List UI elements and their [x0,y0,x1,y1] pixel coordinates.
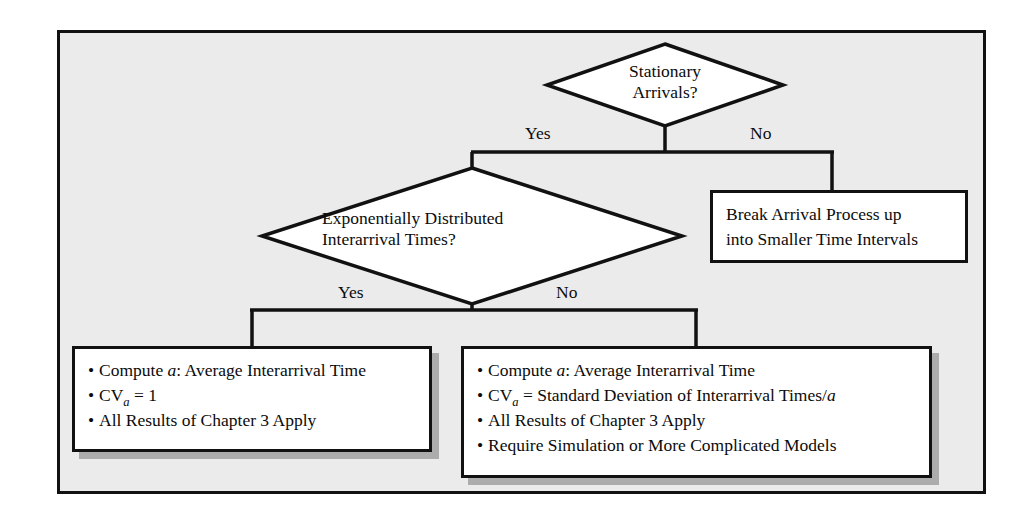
flowchart-canvas: Stationary Arrivals? Yes No Exponentiall… [0,0,1036,517]
process-box-break-arrival-process: Break Arrival Process up into Smaller Ti… [710,190,968,263]
decision-line-1: Exponentially Distributed [322,208,622,229]
bullet-text-pre: All Results of Chapter 3 Apply [99,410,316,430]
bullet-text-pre: Compute [488,360,557,380]
bullet-text-post: = Standard Deviation of Interarrival Tim… [519,385,827,405]
bullet-text-tail-italic: a [827,385,836,405]
decision-line-2: Arrivals? [565,82,765,103]
bullet-text-post: : Average Interarrival Time [176,360,366,380]
bullet-text-post: = 1 [130,385,157,405]
edge-label-exponential-no: No [556,282,577,303]
list-item: •All Results of Chapter 3 Apply [477,408,916,433]
bullet-glyph: • [477,383,488,408]
result-box-exponential-results: •Compute a: Average Interarrival Time •C… [72,346,432,452]
decision-label-stationary-arrivals: Stationary Arrivals? [565,61,765,102]
list-item: •Require Simulation or More Complicated … [477,433,916,458]
list-item: •All Results of Chapter 3 Apply [88,408,416,433]
bullet-glyph: • [88,408,99,433]
edge-label-stationary-yes: Yes [525,123,550,144]
process-line-1: Break Arrival Process up [726,202,952,227]
bullet-text-pre: CV [99,385,123,405]
bullet-glyph: • [477,433,488,458]
bullet-text-post: : Average Interarrival Time [565,360,755,380]
result-box-general-results: •Compute a: Average Interarrival Time •C… [461,346,932,478]
bullet-text-pre: Require Simulation or More Complicated M… [488,435,837,455]
edge-label-stationary-no: No [750,123,771,144]
process-line-2: into Smaller Time Intervals [726,227,952,252]
list-item: •CVa = 1 [88,383,416,408]
bullet-glyph: • [88,383,99,408]
bullet-text-pre: All Results of Chapter 3 Apply [488,410,705,430]
bullet-text-italic: a [168,360,177,380]
bullet-glyph: • [477,358,488,383]
bullet-text-italic: a [557,360,566,380]
decision-label-exponential-interarrival: Exponentially Distributed Interarrival T… [322,208,622,249]
bullet-text-pre: Compute [99,360,168,380]
bullet-glyph: • [477,408,488,433]
list-item: •CVa = Standard Deviation of Interarriva… [477,383,916,408]
decision-line-1: Stationary [565,61,765,82]
process-box-text: Break Arrival Process up into Smaller Ti… [713,193,965,261]
result-box-left-list: •Compute a: Average Interarrival Time •C… [75,349,429,442]
edge-label-exponential-yes: Yes [338,282,363,303]
list-item: •Compute a: Average Interarrival Time [88,358,416,383]
bullet-text-pre: CV [488,385,512,405]
result-box-right-list: •Compute a: Average Interarrival Time •C… [464,349,929,466]
decision-line-2: Interarrival Times? [322,229,622,250]
list-item: •Compute a: Average Interarrival Time [477,358,916,383]
bullet-glyph: • [88,358,99,383]
